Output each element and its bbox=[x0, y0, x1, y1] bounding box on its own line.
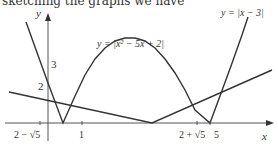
y-axis-label: y bbox=[35, 7, 41, 19]
curve-label-quadratic: y = |x² − 5x + 2| bbox=[96, 38, 164, 49]
y-tick-label-2: 2 bbox=[38, 80, 44, 92]
graph: y x 3 2 2 − √5 1 2 + √5 5 y = |x² − 5x +… bbox=[0, 0, 278, 147]
x-tick-label-5: 5 bbox=[214, 129, 219, 140]
curve-abs-quadratic bbox=[26, 17, 248, 123]
x-tick-label-2-minus-sqrt5: 2 − √5 bbox=[14, 129, 40, 140]
x-axis-label: x bbox=[261, 130, 267, 142]
x-axis-arrow-icon bbox=[266, 120, 274, 126]
curve-label-linear: y = |x − 3| bbox=[220, 7, 264, 18]
y-tick-label-3: 3 bbox=[51, 58, 57, 70]
x-tick-label-2-plus-sqrt5: 2 + √5 bbox=[179, 129, 205, 140]
y-axis-arrow-icon bbox=[45, 13, 51, 21]
x-tick-label-1: 1 bbox=[79, 129, 84, 140]
